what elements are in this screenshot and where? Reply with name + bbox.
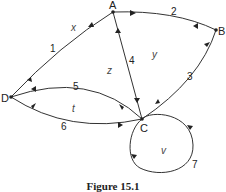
node-b-label: B [218, 26, 225, 36]
edge-2 [113, 12, 216, 30]
edge-5 [11, 87, 142, 119]
node-c-label: C [140, 123, 148, 133]
face-label-t: t [72, 104, 75, 114]
edge-1 [11, 12, 113, 97]
edge-4 [113, 12, 142, 119]
edge-label-4: 4 [129, 56, 135, 66]
diagram: A B C D 1 2 3 4 5 6 7 x y z t v Figure 1… [0, 0, 226, 192]
edge-label-3: 3 [187, 72, 193, 82]
node-a-label: A [109, 0, 116, 10]
face-label-y: y [152, 50, 157, 60]
edge-label-6: 6 [61, 122, 67, 132]
edge-6 [11, 97, 142, 124]
face-label-z: z [107, 66, 112, 76]
edge-label-7: 7 [192, 160, 198, 170]
edge-label-5: 5 [73, 82, 79, 92]
arrow-1a [88, 22, 94, 27]
edge-3 [142, 30, 216, 119]
face-label-v: v [161, 146, 166, 156]
figure-caption: Figure 15.1 [0, 180, 226, 192]
face-label-x: x [71, 23, 76, 33]
edge-label-2: 2 [171, 7, 177, 17]
node-d-label: D [1, 93, 9, 103]
edge-label-1: 1 [50, 44, 56, 54]
